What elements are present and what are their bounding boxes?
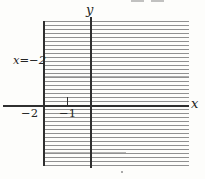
scan-artifact-dark-hatch-line [44,152,126,153]
tick-mark-minus-1 [67,97,68,106]
tick-label-minus-1: −1 [59,108,76,120]
inequality-graph-figure: y x x=−2 −2 −1 [0,0,205,179]
scan-artifact-dark-hatch-line [44,76,189,77]
tick-label-minus-2: −2 [21,108,38,120]
scan-artifact-dot [121,171,123,173]
line-equation-label: x=−2 [13,55,46,67]
y-axis [90,17,92,168]
x-axis-label: x [191,97,198,110]
y-axis-label: y [86,3,93,16]
scan-artifact-smudge [131,0,144,2]
line-x-equals-minus-2 [43,21,45,166]
shaded-region-hatching [44,21,189,166]
scan-artifact-smudge [151,0,164,2]
